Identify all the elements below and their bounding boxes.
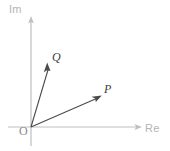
- arrowhead-p-icon: [92, 96, 102, 103]
- vector-label-q: Q: [52, 50, 61, 65]
- vector-label-p: P: [104, 82, 111, 97]
- vector-q: [31, 63, 51, 128]
- origin-label: O: [19, 124, 28, 139]
- real-axis: [8, 124, 142, 130]
- vector-p: [31, 96, 102, 127]
- imaginary-axis-label: Im: [9, 3, 22, 15]
- argand-diagram: Im Re O Q P: [0, 0, 170, 151]
- real-axis-label: Re: [145, 122, 159, 134]
- arrowhead-q-icon: [44, 63, 51, 73]
